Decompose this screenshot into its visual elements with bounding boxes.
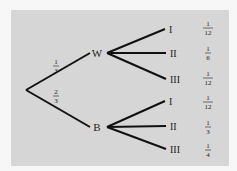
leaf-B-III: III — [170, 144, 180, 155]
joint-W-II: 1 6 — [205, 45, 211, 62]
edge-B-I — [107, 101, 165, 127]
edge-root-B — [26, 90, 90, 127]
node-W: W — [92, 47, 103, 59]
svg-text:1: 1 — [206, 45, 210, 53]
svg-text:3: 3 — [206, 128, 210, 136]
svg-text:1: 1 — [206, 119, 210, 127]
svg-text:1: 1 — [206, 142, 210, 150]
edge-W-III — [107, 53, 166, 79]
svg-text:1: 1 — [206, 20, 210, 28]
edge-B-III — [107, 127, 166, 149]
leaf-W-III: III — [170, 74, 180, 85]
joint-B-III: 1 4 — [205, 142, 211, 159]
joint-W-III: 1 12 — [203, 70, 213, 87]
edge-root-W — [26, 53, 90, 90]
leaf-B-I: I — [169, 96, 172, 107]
svg-text:3: 3 — [54, 97, 58, 105]
svg-text:2: 2 — [54, 88, 58, 96]
svg-text:12: 12 — [205, 103, 213, 111]
node-B: B — [93, 121, 100, 133]
svg-text:3: 3 — [54, 67, 58, 75]
leaf-W-II: II — [170, 48, 177, 59]
svg-text:1: 1 — [54, 58, 58, 66]
probability-tree: 1 3 2 3 W B I II III I II III 1 12 1 6 1… — [0, 0, 237, 171]
joint-W-I: 1 12 — [203, 20, 213, 37]
svg-text:6: 6 — [206, 54, 210, 62]
svg-text:1: 1 — [206, 94, 210, 102]
svg-text:4: 4 — [206, 151, 210, 159]
joint-B-I: 1 12 — [203, 94, 213, 111]
svg-text:12: 12 — [205, 79, 213, 87]
leaf-W-I: I — [169, 24, 172, 35]
edge-B-II — [107, 126, 166, 127]
svg-text:12: 12 — [205, 29, 213, 37]
svg-text:1: 1 — [206, 70, 210, 78]
edge-W-I — [107, 29, 165, 53]
leaf-B-II: II — [170, 121, 177, 132]
joint-B-II: 1 3 — [205, 119, 211, 136]
root-prob-B: 2 3 — [53, 88, 59, 105]
